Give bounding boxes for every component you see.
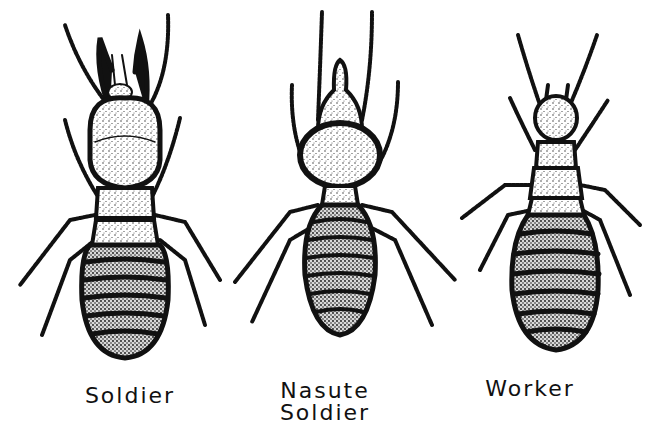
nasute-soldier-label-line2: Soldier xyxy=(270,402,380,424)
worker-termite-drawing xyxy=(462,35,640,350)
soldier-termite-drawing xyxy=(20,15,220,358)
termite-castes-figure: Soldier Nasute Soldier Worker xyxy=(0,0,655,437)
nasute-soldier-termite-drawing xyxy=(235,12,455,335)
nasute-soldier-label-line1: Nasute xyxy=(270,380,380,402)
termite-illustration xyxy=(0,0,655,437)
soldier-label: Soldier xyxy=(70,385,190,407)
nasute-soldier-label: Nasute Soldier xyxy=(270,380,380,424)
worker-label: Worker xyxy=(475,378,585,400)
